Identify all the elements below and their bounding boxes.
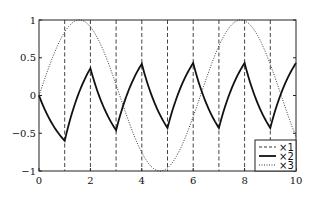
y-tick-label: −0.5 — [12, 128, 36, 139]
legend: ×1 ×2 ×3 — [255, 140, 296, 171]
legend-label-x3: ×3 — [279, 160, 294, 171]
x-tick-label: 0 — [36, 175, 42, 186]
line-chart: 0246810 10.50−0.5−1 ×1 ×2 ×3 — [0, 0, 316, 199]
y-tick-label: 0 — [30, 90, 36, 101]
x-tick-label: 4 — [139, 175, 145, 186]
y-tick-label: −1 — [21, 166, 36, 177]
x-tick-label: 10 — [290, 175, 303, 186]
y-axis-tick-labels: 10.50−0.5−1 — [12, 15, 36, 177]
x-tick-label: 2 — [87, 175, 93, 186]
x-tick-label: 8 — [241, 175, 247, 186]
x-tick-label: 6 — [190, 175, 196, 186]
y-tick-label: 0.5 — [20, 52, 36, 63]
y-tick-label: 1 — [30, 15, 36, 26]
x-axis-tick-labels: 0246810 — [36, 175, 303, 186]
